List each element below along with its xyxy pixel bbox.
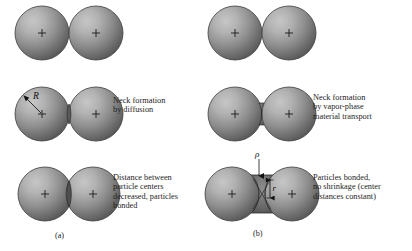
caption-b-bonded-no-shrinkage: Particles bonded, no shrinkage (center d… [313, 173, 381, 201]
caption-a-neck-formation: Neck formation by diffusion [113, 96, 165, 115]
panel-label-a: (a) [55, 231, 64, 240]
rho-label: ρ [254, 149, 260, 159]
panel-label-b: (b) [253, 229, 263, 238]
sintering-diagram: R [0, 0, 412, 251]
caption-a-bonded-shrinkage: Distance between particle centers decrea… [113, 173, 178, 211]
neck-bridge [67, 104, 71, 124]
caption-b-neck-formation: Neck formation by vapor-phase material t… [313, 93, 372, 121]
neck-bridge [67, 181, 72, 207]
radius-label-R: R [32, 91, 39, 101]
